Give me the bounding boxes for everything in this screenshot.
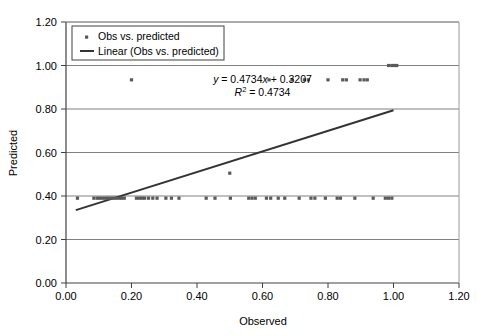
data-point [205,197,208,200]
data-point [353,197,356,200]
x-tick-label: 1.00 [383,290,404,302]
legend: Obs vs. predictedLinear (Obs vs. predict… [72,26,224,60]
data-point [269,197,272,200]
data-point [326,78,329,81]
legend-marker-point [85,36,88,39]
x-tick-label: 0.80 [317,290,338,302]
data-point [155,197,158,200]
data-point [92,197,95,200]
data-point [309,197,312,200]
y-tick-label: 1.20 [36,16,57,28]
y-tick-label: 0.40 [36,190,57,202]
data-point [395,64,398,67]
data-point [313,197,316,200]
regression-equation-text: y = 0.4734x + 0.3207 [212,73,312,85]
data-point [341,78,344,81]
y-tick-label: 0.80 [36,103,57,115]
data-point [366,78,369,81]
data-point [283,197,286,200]
data-point [228,172,231,175]
data-point [143,197,146,200]
data-point [387,197,390,200]
x-tick-label: 0.20 [121,290,142,302]
data-point [135,197,138,200]
data-point [362,78,365,81]
data-point [229,197,232,200]
data-point [250,197,253,200]
data-point [339,197,342,200]
data-point [170,197,173,200]
data-point [345,78,348,81]
y-tick-label: 1.00 [36,60,57,72]
scatter-chart: 0.000.200.400.600.801.001.20 0.000.200.4… [0,0,492,336]
data-point [247,197,250,200]
y-tick-label: 0.20 [36,234,57,246]
data-point [372,197,375,200]
data-point [390,197,393,200]
data-point [147,197,150,200]
data-point [359,78,362,81]
y-tick-label: 0.60 [36,147,57,159]
x-tick-label: 0.00 [55,290,76,302]
x-tick-label: 0.60 [252,290,273,302]
data-point [277,197,280,200]
data-point [384,197,387,200]
data-point [123,197,126,200]
y-axis-title: Predicted [7,130,19,176]
data-point [177,197,180,200]
data-point [164,197,167,200]
data-point [213,197,216,200]
data-point [254,197,257,200]
data-point [76,197,79,200]
x-tick-label: 1.20 [448,290,469,302]
y-tick-label: 0.00 [36,277,57,289]
data-point [298,197,301,200]
chart-container: 0.000.200.400.600.801.001.20 0.000.200.4… [0,0,492,336]
x-axis-title: Observed [239,315,287,327]
data-point [336,197,339,200]
x-tick-label: 0.40 [186,290,207,302]
legend-label-obs-vs-predicted: Obs vs. predicted [98,30,180,42]
data-point [265,197,268,200]
data-point [324,197,327,200]
data-point [130,78,133,81]
data-point [151,197,154,200]
legend-label-linear-fit: Linear (Obs vs. predicted) [98,45,219,57]
data-point [387,64,390,67]
